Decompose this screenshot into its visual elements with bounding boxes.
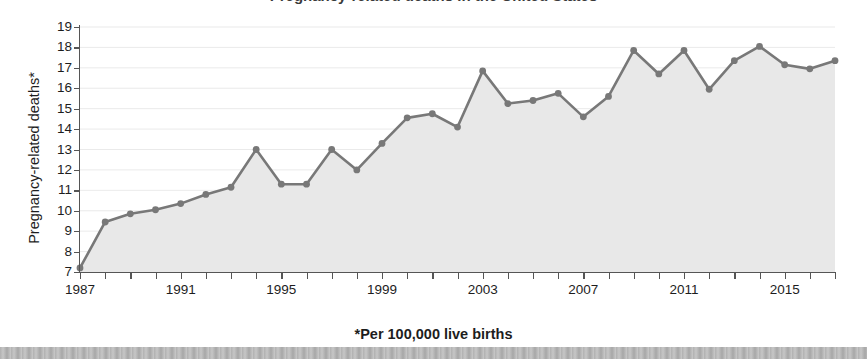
x-tick-mark [785, 273, 786, 279]
y-tick-mark [74, 231, 79, 232]
y-tick-label: 16 [48, 81, 72, 95]
x-tick-mark [256, 273, 257, 279]
data-point [479, 68, 486, 75]
x-tick-mark [206, 273, 207, 279]
bottom-strip [0, 347, 867, 359]
x-tick-mark [332, 273, 333, 279]
data-point [253, 146, 260, 153]
x-tick-mark [508, 273, 509, 279]
y-tick-label: 8 [48, 245, 72, 259]
y-tick-mark [74, 47, 79, 48]
data-point [202, 191, 209, 198]
y-tick-mark [74, 170, 79, 171]
x-tick-label: 1995 [251, 282, 311, 297]
y-tick-mark [74, 190, 79, 191]
x-tick-label: 1987 [50, 282, 110, 297]
data-point [102, 219, 109, 226]
data-point [756, 43, 763, 50]
x-tick-mark [105, 273, 106, 279]
area-fill [80, 46, 835, 272]
y-tick-mark [74, 252, 79, 253]
y-tick-label: 9 [48, 224, 72, 238]
x-tick-mark [810, 273, 811, 279]
x-tick-mark [558, 273, 559, 279]
x-tick-mark [659, 273, 660, 279]
y-tick-mark [74, 88, 79, 89]
y-tick-label: 14 [48, 122, 72, 136]
data-point [681, 47, 688, 54]
y-tick-label: 19 [48, 20, 72, 34]
chart-footnote: *Per 100,000 live births [0, 326, 867, 342]
y-tick-mark [74, 27, 79, 28]
y-axis-line [79, 25, 80, 273]
x-tick-label: 2007 [553, 282, 613, 297]
data-point [580, 113, 587, 120]
x-tick-label: 2003 [453, 282, 513, 297]
x-tick-mark [130, 273, 131, 279]
y-tick-label: 11 [48, 183, 72, 197]
y-tick-mark [74, 109, 79, 110]
data-point [404, 114, 411, 121]
data-point [353, 167, 360, 174]
data-point [278, 181, 285, 188]
data-point [177, 200, 184, 207]
x-tick-label: 1999 [352, 282, 412, 297]
data-point [379, 140, 386, 147]
y-tick-mark [74, 129, 79, 130]
y-tick-label: 15 [48, 102, 72, 116]
x-tick-mark [407, 273, 408, 279]
data-point [630, 47, 637, 54]
x-tick-mark [609, 273, 610, 279]
data-point [530, 97, 537, 104]
y-tick-mark [74, 68, 79, 69]
x-tick-mark [357, 273, 358, 279]
data-point [731, 57, 738, 64]
data-point [303, 181, 310, 188]
x-tick-mark [483, 273, 484, 279]
data-point [605, 93, 612, 100]
data-point [328, 146, 335, 153]
x-tick-mark [533, 273, 534, 279]
data-point [504, 100, 511, 107]
data-point [454, 124, 461, 131]
y-tick-label: 10 [48, 204, 72, 218]
y-tick-label: 7 [48, 265, 72, 279]
y-tick-label: 12 [48, 163, 72, 177]
data-point [429, 110, 436, 117]
x-tick-mark [307, 273, 308, 279]
x-tick-mark [231, 273, 232, 279]
x-tick-mark [281, 273, 282, 279]
x-tick-mark [181, 273, 182, 279]
x-tick-mark [156, 273, 157, 279]
x-tick-mark [734, 273, 735, 279]
y-tick-mark [74, 150, 79, 151]
x-tick-label: 2015 [755, 282, 815, 297]
data-point [781, 61, 788, 68]
data-point [555, 90, 562, 97]
x-tick-mark [835, 273, 836, 279]
data-point [127, 210, 134, 217]
x-tick-mark [709, 273, 710, 279]
x-tick-mark [432, 273, 433, 279]
y-tick-label: 18 [48, 40, 72, 54]
x-tick-mark [634, 273, 635, 279]
y-tick-mark [74, 272, 79, 273]
chart-figure: Pregnancy-related deaths in the United S… [0, 0, 867, 359]
y-tick-mark [74, 211, 79, 212]
y-tick-label: 17 [48, 61, 72, 75]
y-tick-label: 13 [48, 143, 72, 157]
x-tick-mark [382, 273, 383, 279]
x-tick-label: 2011 [654, 282, 714, 297]
x-tick-mark [583, 273, 584, 279]
data-point [832, 57, 839, 64]
chart-plot-area [0, 0, 867, 359]
data-point [228, 184, 235, 191]
x-tick-label: 1991 [151, 282, 211, 297]
data-point [806, 65, 813, 72]
data-point [655, 71, 662, 78]
x-tick-mark [80, 273, 81, 279]
x-tick-mark [458, 273, 459, 279]
data-point [706, 86, 713, 93]
x-tick-mark [760, 273, 761, 279]
x-tick-mark [684, 273, 685, 279]
